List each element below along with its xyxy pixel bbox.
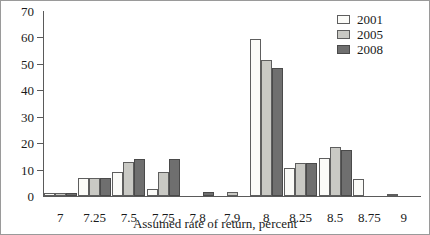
- bar-2001-8.75: [353, 179, 364, 196]
- y-tick-mark: [37, 117, 43, 118]
- bar-2008-8.25: [306, 163, 317, 196]
- x-axis-title: Assumed rate of return, percent: [0, 216, 430, 232]
- y-tick-label: 0: [28, 190, 35, 203]
- bar-group-7.5: [112, 11, 145, 196]
- bar-2008-7.25: [100, 178, 111, 197]
- legend-swatch-icon: [337, 15, 350, 24]
- y-tick-label: 70: [21, 5, 34, 18]
- legend-item-2001[interactable]: 2001: [337, 12, 415, 27]
- y-tick-mark: [37, 37, 43, 38]
- y-tick-mark: [37, 170, 43, 171]
- bar-2008-8: [272, 68, 283, 196]
- bar-2008-7.5: [134, 159, 145, 196]
- legend-swatch-icon: [337, 45, 350, 54]
- bar-group-7: [44, 11, 77, 196]
- bar-2008-7: [66, 193, 77, 196]
- bar-group-8.25: [284, 11, 317, 196]
- y-tick-mark: [37, 143, 43, 144]
- bar-2005-8.25: [295, 163, 306, 196]
- bar-group-7.9: [216, 11, 249, 196]
- bar-2001-7.5: [112, 172, 123, 196]
- bar-2001-7.75: [147, 189, 158, 196]
- bar-2008-8.5: [341, 150, 352, 196]
- y-tick-mark: [37, 64, 43, 65]
- bar-2001-8.25: [284, 168, 295, 196]
- bar-2005-7.9: [227, 192, 238, 196]
- bar-2005-8.5: [330, 147, 341, 196]
- bar-2001-7: [44, 193, 55, 196]
- bar-2005-8: [261, 60, 272, 196]
- y-tick-label: 10: [21, 163, 34, 176]
- legend-swatch-icon: [337, 30, 350, 39]
- legend-label: 2001: [357, 13, 383, 26]
- legend-label: 2008: [357, 43, 383, 56]
- bar-2005-7.25: [89, 178, 100, 197]
- x-axis-line: [43, 196, 421, 197]
- y-tick-label: 40: [21, 84, 34, 97]
- bar-2001-8.5: [319, 158, 330, 196]
- bar-2005-7.5: [123, 162, 134, 196]
- bar-group-7.25: [78, 11, 111, 196]
- legend-label: 2005: [357, 28, 383, 41]
- chart-legend: 200120052008: [337, 12, 415, 57]
- bar-group-7.8: [181, 11, 214, 196]
- y-tick-label: 50: [21, 57, 34, 70]
- bar-group-7.75: [147, 11, 180, 196]
- bar-chart-figure: 010203040506070 77.257.57.757.87.988.258…: [0, 0, 430, 235]
- y-tick-label: 30: [21, 110, 34, 123]
- y-tick-label: 20: [21, 137, 34, 150]
- y-tick-mark: [37, 90, 43, 91]
- bar-2005-7.75: [158, 172, 169, 196]
- y-tick-label: 60: [21, 31, 34, 44]
- bar-2001-8: [250, 39, 261, 196]
- bar-2001-9: [387, 194, 398, 196]
- bar-2008-7.75: [169, 159, 180, 196]
- bar-2005-7: [55, 193, 66, 196]
- bar-2008-7.8: [203, 192, 214, 196]
- bar-group-8: [250, 11, 283, 196]
- legend-item-2005[interactable]: 2005: [337, 27, 415, 42]
- legend-item-2008[interactable]: 2008: [337, 42, 415, 57]
- bar-2001-7.25: [78, 178, 89, 197]
